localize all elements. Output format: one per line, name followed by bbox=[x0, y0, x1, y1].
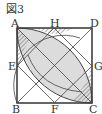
label-d: D bbox=[90, 17, 99, 30]
label-h: H bbox=[50, 17, 60, 30]
label-a: A bbox=[10, 17, 20, 30]
label-c: C bbox=[89, 103, 97, 114]
label-f: F bbox=[51, 103, 59, 114]
label-e: E bbox=[8, 60, 16, 73]
label-b: B bbox=[12, 103, 20, 114]
figure: 図3 A H D E G B F C bbox=[0, 0, 102, 114]
figure-title: 図3 bbox=[6, 3, 24, 16]
label-g: G bbox=[94, 60, 102, 73]
